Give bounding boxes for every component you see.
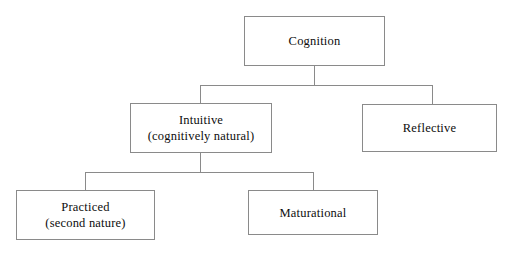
node-cognition-label: Cognition	[289, 33, 341, 49]
connector-drop-to-reflective	[432, 85, 433, 104]
node-practiced-label: Practiced	[61, 199, 109, 215]
connector-drop-to-intuitive	[200, 85, 201, 103]
node-intuitive-label: Intuitive	[179, 112, 223, 128]
node-practiced: Practiced (second nature)	[16, 190, 155, 240]
node-reflective: Reflective	[362, 104, 497, 152]
cognition-hierarchy-diagram: Cognition Intuitive (cognitively natural…	[0, 0, 510, 253]
connector-drop-to-maturational	[313, 172, 314, 190]
node-maturational-label: Maturational	[280, 205, 347, 221]
connector-level2-horizontal-bar	[85, 172, 314, 173]
connector-cognition-stem	[314, 66, 315, 85]
node-practiced-sublabel: (second nature)	[45, 215, 125, 231]
node-intuitive-sublabel: (cognitively natural)	[148, 128, 255, 144]
node-reflective-label: Reflective	[403, 120, 456, 136]
node-cognition: Cognition	[244, 16, 385, 66]
connector-drop-to-practiced	[85, 172, 86, 190]
node-intuitive: Intuitive (cognitively natural)	[130, 103, 272, 153]
connector-intuitive-stem	[200, 153, 201, 172]
node-maturational: Maturational	[248, 190, 378, 235]
connector-level1-horizontal-bar	[200, 85, 433, 86]
